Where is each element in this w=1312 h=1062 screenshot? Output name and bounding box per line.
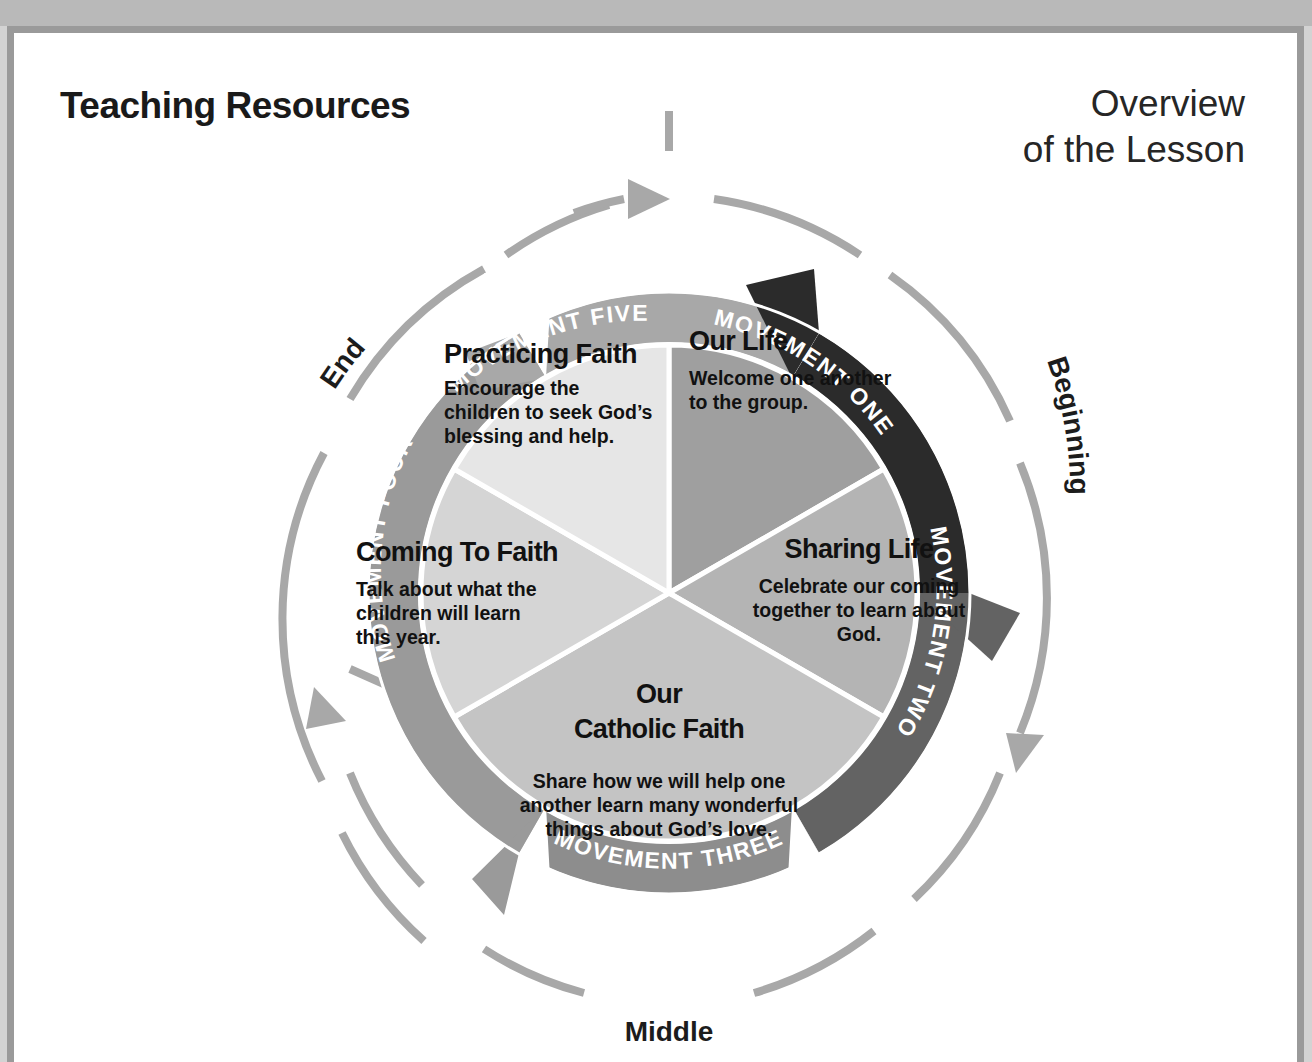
segment-body-sharing-life-line1: Celebrate our coming [759,575,959,597]
arrowhead-left-up [306,687,346,729]
segment-body-sharing-life-line2: together to learn about [753,599,966,621]
page-background: Teaching Resources Overview of the Lesso… [0,0,1312,1062]
arrow-arc-segment-top-left [506,205,609,255]
content-frame: Teaching Resources Overview of the Lesso… [7,26,1304,1062]
segment-title-coming-to-faith: Coming To Faith [356,537,558,567]
wheel-svg: MOVEMENT ONE MOVEMENT TWO MOVEMENT THREE… [154,73,1184,1062]
segment-body-our-catholic-faith-line2: another learn many wonderful [520,794,798,816]
arrow-arc-segment-top-right [714,199,860,255]
segment-title-our-catholic-faith-line1: Our [636,679,683,709]
arrowhead-right-down [1006,733,1044,773]
segment-body-coming-to-faith-line2: children will learn [356,602,521,624]
segment-body-our-life-line1: Welcome one another [689,367,892,389]
segment-body-practicing-faith-line2: children to seek God’s [444,401,653,423]
segment-title-practicing-faith: Practicing Faith [444,339,637,369]
segment-body-coming-to-faith-line1: Talk about what the [356,578,537,600]
segment-title-sharing-life: Sharing Life [785,534,934,564]
segment-body-practicing-faith-line1: Encourage the [444,377,580,399]
lesson-wheel-diagram: MOVEMENT ONE MOVEMENT TWO MOVEMENT THREE… [154,73,1184,1062]
segment-body-practicing-faith-line3: blessing and help. [444,425,614,447]
outer-label-middle: Middle [625,1016,714,1047]
arrow-arc-segment-bottom-left [342,833,424,941]
segment-body-our-catholic-faith-line3: things about God’s love. [546,818,773,840]
outer-label-beginning: Beginning [1041,353,1095,495]
arrow-arc-segment-upper-right [890,275,1010,421]
top-strip [0,0,1312,26]
arrow-arc-segment-bottom [484,949,584,993]
arrow-arc-segment-lower-right [914,773,1000,899]
segment-body-our-catholic-faith-line1: Share how we will help one [533,770,786,792]
arrowhead-top-left [628,179,670,219]
segment-title-our-life: Our Life [689,326,788,356]
segment-title-our-catholic-faith-line2: Catholic Faith [574,714,744,744]
segment-body-our-life-line2: to the group. [689,391,808,413]
segment-body-sharing-life-line3: God. [837,623,881,645]
arrow-arc-segment-left [282,453,324,781]
arrow-arc-segment-bottom-right [754,931,874,993]
segment-body-coming-to-faith-line3: this year. [356,626,441,648]
